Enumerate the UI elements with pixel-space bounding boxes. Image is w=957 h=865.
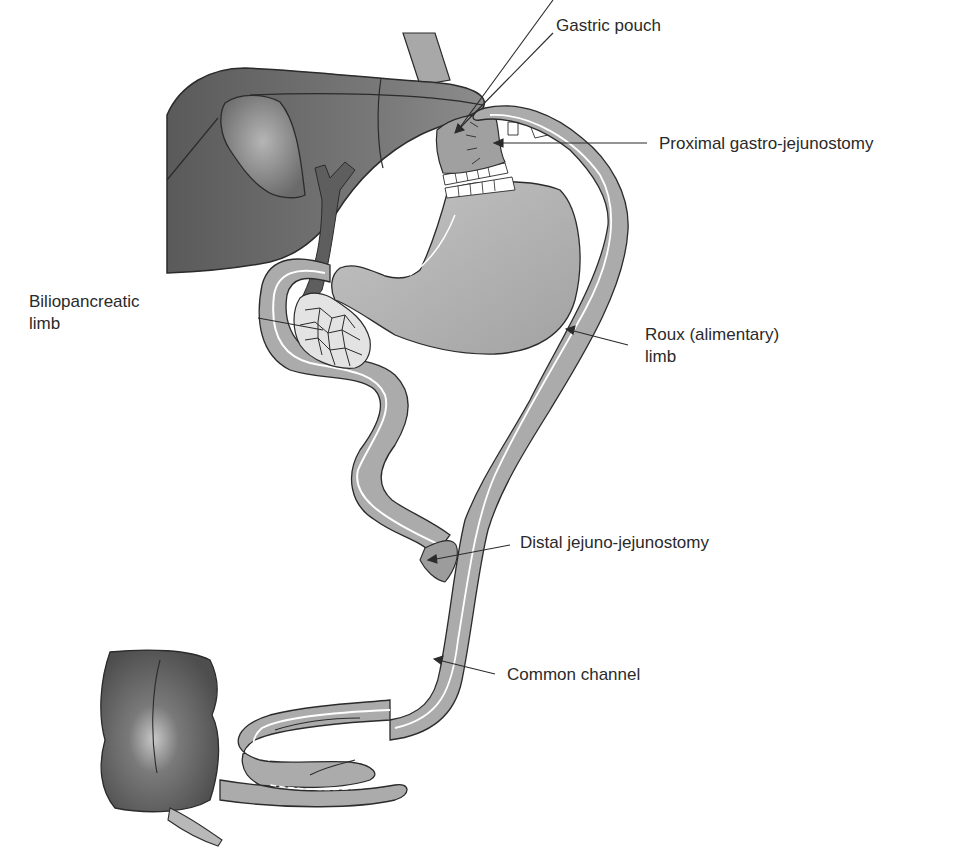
esophagus [403,33,450,85]
gastric-bypass-diagram [0,0,957,865]
label-proximal-gastro-jejunostomy: Proximal gastro-jejunostomy [659,133,873,154]
cecum [101,650,219,812]
remnant-stomach [332,182,580,354]
label-roux-line1: Roux (alimentary) [645,324,779,345]
label-common-channel: Common channel [507,664,640,685]
label-distal-jejuno-jejunostomy: Distal jejuno-jejunostomy [520,532,709,553]
label-roux-line2: limb [645,346,676,367]
label-biliopancreatic-line1: Biliopancreatic [29,291,140,312]
label-biliopancreatic-line2: limb [29,313,60,334]
appendix [168,808,222,846]
label-gastric-pouch: Gastric pouch [556,15,661,36]
